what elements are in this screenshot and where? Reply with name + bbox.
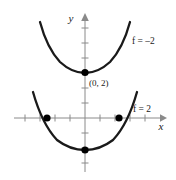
parabola-figure: y x f = –2 f = 2 (0, 2)	[0, 0, 176, 180]
lower-vertex-point	[81, 146, 88, 153]
lower-curve-label: f = 2	[133, 104, 151, 114]
upper-vertex-point	[81, 69, 88, 76]
figure-canvas: y x f = –2 f = 2 (0, 2)	[0, 0, 176, 180]
left-root-point	[43, 114, 50, 121]
upper-curve-label: f = –2	[132, 36, 155, 46]
vertex-point-label: (0, 2)	[89, 78, 109, 88]
y-axis-label: y	[68, 12, 74, 24]
x-axis-label: x	[158, 120, 164, 132]
right-root-point	[115, 114, 122, 121]
y-axis-arrow-icon	[81, 13, 89, 21]
